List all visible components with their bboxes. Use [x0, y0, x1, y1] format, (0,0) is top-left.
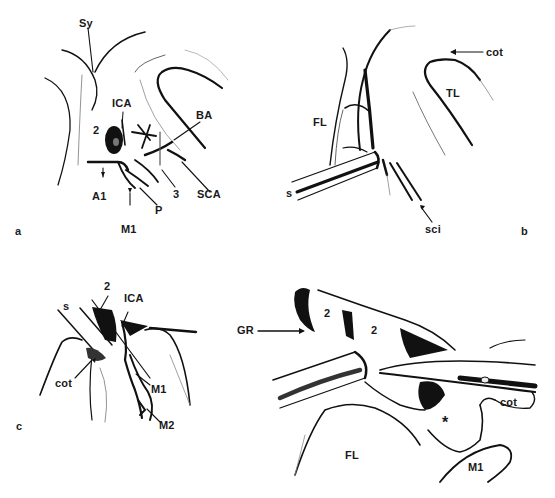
label-cot: cot: [486, 47, 503, 58]
label-ica: ICA: [112, 98, 132, 109]
label-sci: sci: [425, 224, 441, 235]
panel-letter-c: c: [16, 421, 22, 432]
label-2: 2: [104, 281, 110, 292]
panel-d-drawing: [230, 270, 555, 498]
label-sca: SCA: [197, 189, 221, 200]
panel-letter-b: b: [521, 226, 528, 237]
label-2b: 2: [371, 325, 377, 336]
label-m2: M2: [159, 420, 175, 431]
label-ica: ICA: [124, 293, 144, 304]
label-cot: cot: [55, 378, 72, 389]
panel-letter-a: a: [15, 226, 21, 237]
label-2a: 2: [324, 308, 330, 319]
label-fl: FL: [345, 450, 359, 461]
label-s: s: [286, 188, 292, 199]
panel-c-drawing: [0, 260, 240, 498]
anatomical-figure: Sy ICA BA 2 A1 3 SCA P M1 a: [0, 0, 555, 498]
panel-d: GR 2 2 cot * FL M1: [230, 270, 555, 498]
label-2: 2: [93, 125, 99, 136]
panel-a-drawing: [0, 0, 277, 250]
label-tl: TL: [446, 88, 460, 99]
label-asterisk: *: [442, 415, 448, 431]
panel-b: cot TL FL s sci b: [275, 0, 555, 250]
label-fl: FL: [313, 117, 327, 128]
label-cot: cot: [500, 397, 517, 408]
label-s: s: [63, 301, 69, 312]
label-a1: A1: [92, 191, 106, 202]
label-m1: M1: [468, 462, 484, 473]
panel-c: 2 s ICA cot M1 M2 c: [0, 260, 240, 498]
label-m1: M1: [151, 384, 167, 395]
label-p: P: [155, 205, 163, 216]
label-ba: BA: [196, 110, 212, 121]
label-sy: Sy: [79, 18, 93, 29]
panel-a: Sy ICA BA 2 A1 3 SCA P M1 a: [0, 0, 277, 250]
label-3: 3: [173, 189, 179, 200]
label-m1: M1: [121, 224, 137, 235]
label-gr: GR: [237, 325, 254, 336]
